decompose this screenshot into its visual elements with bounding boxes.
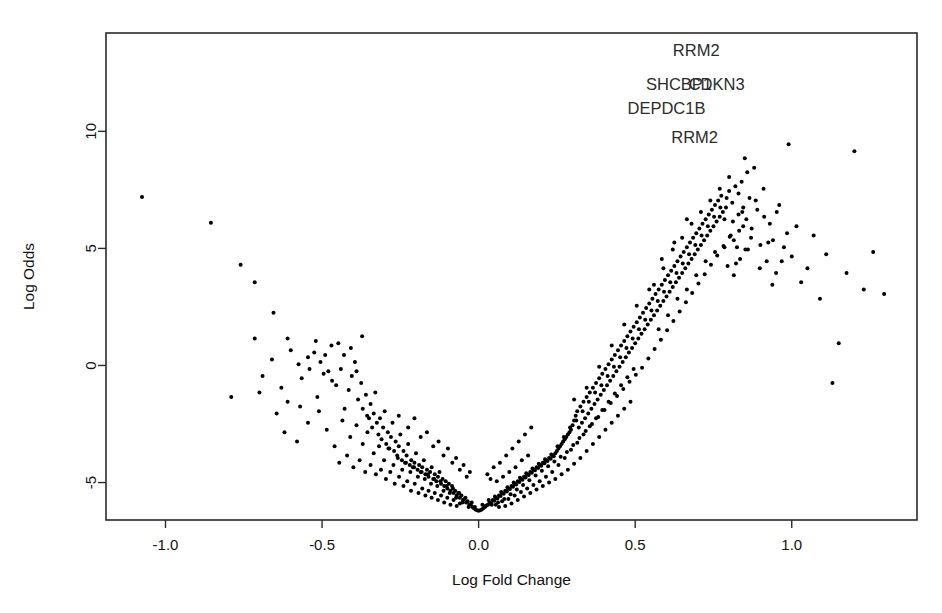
data-point [526,454,530,458]
data-point [586,411,590,415]
y-tick-label: 0 [82,361,99,369]
data-point [435,484,439,488]
data-point [430,465,434,469]
data-point [239,263,243,267]
gene-label: CDKN3 [689,75,745,93]
data-point [719,194,723,198]
data-point [349,346,353,350]
data-point [423,493,427,497]
data-point [423,477,427,481]
data-point [722,217,726,221]
scatter-points [140,142,886,512]
data-point [323,353,327,357]
data-point [665,328,669,332]
data-point [391,463,395,467]
data-point [279,386,283,390]
data-point [690,257,694,261]
data-point [314,339,318,343]
data-point [862,287,866,291]
gene-label: RRM2 [673,41,720,59]
data-point [666,273,670,277]
data-point [711,224,715,228]
data-point [599,383,603,387]
data-point [741,205,745,209]
data-point [594,381,598,385]
data-point [374,472,378,476]
data-point [605,383,609,387]
data-point [393,482,397,486]
y-tick-label: 5 [82,244,99,252]
gene-label: DEPDC1B [628,99,706,117]
data-point [737,191,741,195]
data-point [585,395,589,399]
data-point [691,236,695,240]
data-point [430,496,434,500]
data-point [365,430,369,434]
data-point [516,498,520,502]
data-point [420,470,424,474]
data-point [672,264,676,268]
data-point [458,502,462,506]
data-point [253,280,257,284]
data-point [663,278,667,282]
data-point [510,502,514,506]
data-point [766,241,770,245]
data-point [365,414,369,418]
data-point [587,400,591,404]
data-point [433,491,437,495]
data-point [647,301,651,305]
data-point [647,287,651,291]
data-point [452,498,456,502]
data-point [530,466,534,470]
data-point [289,348,293,352]
data-point [417,491,421,495]
data-point [382,458,386,462]
data-point [597,435,601,439]
data-point [633,341,637,345]
data-point [622,323,626,327]
data-point [583,416,587,420]
data-point [636,337,640,341]
data-point [675,259,679,263]
data-point [640,366,644,370]
data-point [646,356,650,360]
data-point [585,449,589,453]
data-point [671,285,675,289]
data-point [704,259,708,263]
data-point [519,490,523,494]
data-point [592,402,596,406]
data-point [450,461,454,465]
data-point [445,496,449,500]
data-point [725,196,729,200]
data-point [272,311,276,315]
data-point [404,461,408,465]
data-point [762,215,766,219]
data-point [697,227,701,231]
data-point [540,469,544,473]
data-point [420,465,424,469]
data-point [397,414,401,418]
data-point [660,257,664,261]
data-point [616,414,620,418]
data-point [705,234,709,238]
data-point [678,310,682,314]
data-point [780,259,784,263]
data-point [824,252,828,256]
data-point [376,433,380,437]
data-point [359,381,363,385]
data-point [638,315,642,319]
data-point [520,458,524,462]
data-point [737,212,741,216]
data-point [572,397,576,401]
data-point [597,376,601,380]
data-point [727,189,731,193]
data-point [297,362,301,366]
data-point [467,505,471,509]
data-point [578,404,582,408]
data-point [625,334,629,338]
data-point [312,351,316,355]
data-point [485,472,489,476]
data-point [765,259,769,263]
data-point [442,454,446,458]
data-point [295,440,299,444]
